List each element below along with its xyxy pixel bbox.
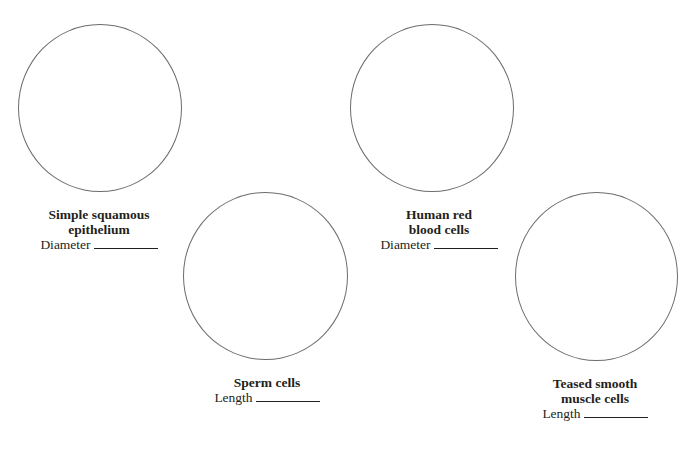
specimen-title-line: Simple squamous [0,207,199,222]
length-answer-blank[interactable] [584,406,648,418]
specimen-label-human-rbc: Human red blood cells Diameter [339,207,539,253]
measurement-label: Length [542,406,580,421]
measurement-row: Length [495,406,694,422]
measurement-row: Diameter [0,237,199,253]
diameter-answer-blank[interactable] [434,237,498,249]
specimen-label-sperm: Sperm cells Length [167,375,367,406]
specimen-title-line: Teased smooth [495,376,694,391]
measurement-label: Length [214,390,252,405]
drawing-circle-simple-squamous[interactable] [18,24,182,192]
specimen-title-line: Sperm cells [167,375,367,390]
specimen-title-line: epithelium [0,222,199,237]
specimen-title-line: Human red [339,207,539,222]
measurement-row: Length [167,390,367,406]
diameter-answer-blank[interactable] [94,237,158,249]
specimen-title-line: muscle cells [495,391,694,406]
specimen-label-simple-squamous: Simple squamous epithelium Diameter [0,207,199,253]
drawing-circle-smooth-muscle[interactable] [515,192,678,361]
drawing-circle-sperm[interactable] [183,192,348,360]
specimen-label-smooth-muscle: Teased smooth muscle cells Length [495,376,694,422]
measurement-row: Diameter [339,237,539,253]
length-answer-blank[interactable] [256,390,320,402]
measurement-label: Diameter [380,237,430,252]
specimen-title-line: blood cells [339,222,539,237]
measurement-label: Diameter [40,237,90,252]
drawing-circle-human-rbc[interactable] [350,24,514,192]
